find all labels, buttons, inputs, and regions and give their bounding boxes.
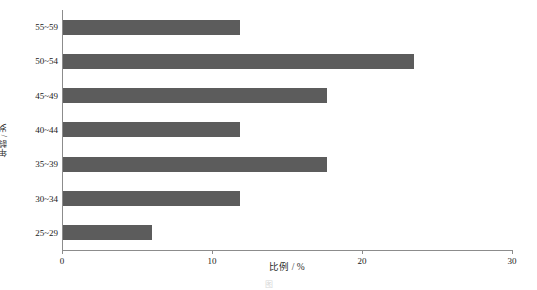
bar-row: 40~44	[63, 113, 512, 147]
x-axis-title: 比例 / %	[62, 262, 512, 273]
y-tick-label: 25~29	[35, 228, 58, 238]
y-tick-label: 50~54	[35, 56, 58, 66]
y-tick-label: 40~44	[35, 125, 58, 135]
bar-row: 25~29	[63, 216, 512, 250]
x-tick-mark	[62, 250, 63, 254]
figure-caption: 图	[0, 280, 537, 290]
y-tick-label: 35~39	[35, 159, 58, 169]
bar-row: 55~59	[63, 10, 512, 44]
bar	[63, 20, 240, 35]
x-tick-mark	[512, 250, 513, 254]
bar	[63, 225, 152, 240]
y-tick-label: 45~49	[35, 91, 58, 101]
bar-row: 50~54	[63, 44, 512, 78]
bar	[63, 157, 327, 172]
y-tick-label: 55~59	[35, 22, 58, 32]
bar-row: 35~39	[63, 147, 512, 181]
y-tick-label: 30~34	[35, 194, 58, 204]
x-tick-mark	[212, 250, 213, 254]
bar	[63, 88, 327, 103]
x-tick-mark	[362, 250, 363, 254]
bar-chart-figure: 年龄 / 岁 25~2930~3435~3940~4445~4950~5455~…	[0, 0, 537, 290]
bar	[63, 54, 414, 69]
bar	[63, 191, 240, 206]
bar-row: 30~34	[63, 181, 512, 215]
bar	[63, 122, 240, 137]
bar-row: 45~49	[63, 79, 512, 113]
y-axis-title: 年龄 / 岁	[0, 104, 14, 176]
plot-area: 25~2930~3435~3940~4445~4950~5455~59 0102…	[62, 10, 512, 250]
x-axis-line	[62, 250, 512, 251]
